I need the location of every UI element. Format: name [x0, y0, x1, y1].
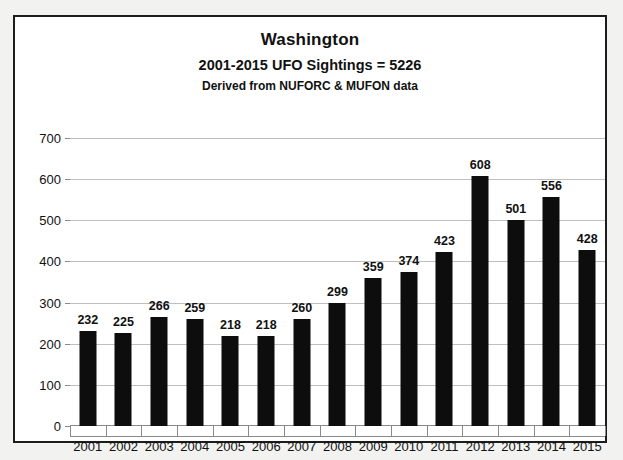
bar[interactable] — [293, 319, 310, 426]
x-axis-tick-label: 2004 — [180, 439, 209, 454]
x-axis-tick-label: 2015 — [573, 439, 602, 454]
x-axis-tick-mark — [70, 426, 71, 436]
x-axis-tick-mark — [462, 426, 463, 436]
bar-value-label: 225 — [113, 315, 134, 329]
chart-page: Washington 2001-2015 UFO Sightings = 522… — [0, 0, 623, 460]
x-axis-tick-mark — [605, 426, 606, 436]
bar[interactable] — [329, 303, 346, 426]
bar-group[interactable]: 232 — [70, 138, 106, 426]
title-block: Washington 2001-2015 UFO Sightings = 522… — [15, 29, 605, 95]
x-axis-tick-label: 2002 — [109, 439, 138, 454]
x-axis-tick-mark — [569, 426, 570, 436]
x-axis-tick-label: 2009 — [359, 439, 388, 454]
x-axis-tick-mark — [248, 426, 249, 436]
x-axis-tick-label: 2014 — [537, 439, 566, 454]
bar-value-label: 501 — [505, 202, 526, 216]
x-axis-tick-label: 2010 — [394, 439, 423, 454]
bar[interactable] — [222, 336, 239, 426]
x-axis-tick-mark — [355, 426, 356, 436]
x-axis-tick-label: 2013 — [501, 439, 530, 454]
bar-group[interactable]: 359 — [355, 138, 391, 426]
bar-value-label: 232 — [77, 313, 98, 327]
y-axis-tick-label: 700 — [39, 131, 61, 146]
bar-group[interactable]: 299 — [320, 138, 356, 426]
plot-area: 7006005004003002001000 23222526625921821… — [70, 138, 605, 426]
y-axis-tick-label: 400 — [39, 254, 61, 269]
bar-group[interactable]: 556 — [534, 138, 570, 426]
y-axis-tick-label: 100 — [39, 377, 61, 392]
bar-value-label: 428 — [577, 232, 598, 246]
chart-frame: Washington 2001-2015 UFO Sightings = 522… — [13, 15, 607, 443]
x-axis-tick-mark — [213, 426, 214, 436]
bar[interactable] — [365, 278, 382, 426]
x-axis-tick-mark — [141, 426, 142, 436]
bar-value-label: 218 — [220, 318, 241, 332]
x-axis-tick-label: 2012 — [466, 439, 495, 454]
chart-subtitle: 2001-2015 UFO Sightings = 5226 — [15, 55, 605, 75]
x-axis-line — [70, 436, 605, 437]
bar-value-label: 218 — [256, 318, 277, 332]
bar-group[interactable]: 218 — [213, 138, 249, 426]
bar-group[interactable]: 501 — [498, 138, 534, 426]
bar[interactable] — [115, 333, 132, 426]
bar-group[interactable]: 266 — [141, 138, 177, 426]
y-axis-tick-label: 300 — [39, 295, 61, 310]
bar-value-label: 556 — [541, 179, 562, 193]
bar[interactable] — [507, 220, 524, 426]
bar-value-label: 608 — [470, 158, 491, 172]
x-axis: 2001200220032004200520062007200820092010… — [70, 426, 605, 460]
x-axis-tick-label: 2001 — [73, 439, 102, 454]
bar[interactable] — [436, 252, 453, 426]
y-axis-tick-label: 500 — [39, 213, 61, 228]
bar-value-label: 374 — [398, 254, 419, 268]
x-axis-tick-label: 2011 — [431, 439, 459, 454]
bar-value-label: 259 — [184, 301, 205, 315]
x-axis-tick-label: 2005 — [216, 439, 245, 454]
bar[interactable] — [579, 250, 596, 426]
bar[interactable] — [543, 197, 560, 426]
y-axis-tick-label: 600 — [39, 172, 61, 187]
bar-group[interactable]: 259 — [177, 138, 213, 426]
x-axis-tick-mark — [534, 426, 535, 436]
bar-series: 2322252662592182182602993593744236085015… — [70, 138, 605, 426]
x-axis-tick-mark — [320, 426, 321, 436]
bar[interactable] — [472, 176, 489, 426]
bar[interactable] — [186, 319, 203, 426]
x-axis-tick-mark — [427, 426, 428, 436]
bar[interactable] — [400, 272, 417, 426]
x-axis-tick-label: 2007 — [287, 439, 316, 454]
page-title: Washington — [15, 29, 605, 51]
x-axis-tick-label: 2008 — [323, 439, 352, 454]
bar[interactable] — [151, 317, 168, 426]
x-axis-tick-label: 2003 — [145, 439, 174, 454]
bar-value-label: 260 — [291, 301, 312, 315]
bar-value-label: 359 — [363, 260, 384, 274]
y-axis-tick-label: 200 — [39, 336, 61, 351]
bar-group[interactable]: 423 — [427, 138, 463, 426]
bar-value-label: 299 — [327, 285, 348, 299]
bar[interactable] — [258, 336, 275, 426]
bar-value-label: 423 — [434, 234, 455, 248]
x-axis-tick-mark — [106, 426, 107, 436]
x-axis-tick-mark — [391, 426, 392, 436]
chart-source-note: Derived from NUFORC & MUFON data — [15, 78, 605, 95]
x-axis-tick-mark — [284, 426, 285, 436]
x-axis-tick-label: 2006 — [252, 439, 281, 454]
bar-group[interactable]: 608 — [462, 138, 498, 426]
bar-group[interactable]: 260 — [284, 138, 320, 426]
x-axis-tick-mark — [498, 426, 499, 436]
bar-group[interactable]: 218 — [248, 138, 284, 426]
bar-group[interactable]: 374 — [391, 138, 427, 426]
bar-value-label: 266 — [149, 299, 170, 313]
bar[interactable] — [79, 331, 96, 426]
bar-group[interactable]: 428 — [569, 138, 605, 426]
bar-group[interactable]: 225 — [106, 138, 142, 426]
x-axis-tick-mark — [177, 426, 178, 436]
y-axis-tick-label: 0 — [54, 419, 61, 434]
